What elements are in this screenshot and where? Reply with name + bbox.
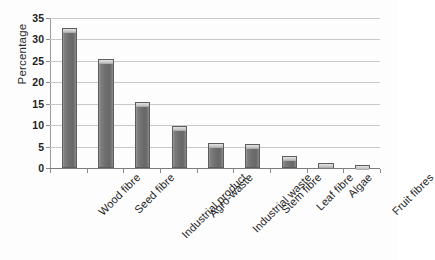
y-tick-label: 30 — [32, 33, 44, 45]
y-axis-title: Percentage — [16, 0, 28, 114]
y-tick-mark — [46, 82, 50, 83]
bar-highlight — [319, 164, 332, 168]
y-tick-mark — [46, 147, 50, 148]
y-tick-label: 20 — [32, 76, 44, 88]
y-tick-label: 10 — [32, 119, 44, 131]
y-tick-label: 25 — [32, 55, 44, 67]
x-axis-labels-group: Wood fibreSeed fibreIndustrial productAg… — [50, 171, 380, 257]
bar — [98, 59, 113, 168]
y-tick-label: 35 — [32, 12, 44, 24]
bar — [245, 144, 260, 168]
x-axis-label: Fruit fibres — [389, 171, 435, 217]
y-tick-mark — [46, 39, 50, 40]
y-tick-label: 5 — [38, 141, 44, 153]
y-tick-mark — [46, 125, 50, 126]
x-tick-mark — [380, 169, 381, 173]
bar — [135, 102, 150, 168]
bar-highlight — [99, 60, 112, 64]
bar — [172, 126, 187, 168]
y-tick-mark — [46, 18, 50, 19]
y-tick-mark — [46, 61, 50, 62]
bar — [62, 28, 77, 168]
bars-group — [51, 18, 380, 168]
y-tick-label: 0 — [38, 162, 44, 174]
bar — [208, 143, 223, 168]
bar-highlight — [173, 127, 186, 131]
bar-highlight — [209, 144, 222, 148]
bar — [318, 163, 333, 168]
bar — [355, 165, 370, 168]
y-tick-label: 15 — [32, 98, 44, 110]
bar — [282, 156, 297, 168]
bar-highlight — [136, 103, 149, 107]
plot-area: 05101520253035 — [50, 18, 380, 169]
bar-highlight — [246, 145, 259, 149]
bar-highlight — [283, 157, 296, 161]
y-tick-mark — [46, 104, 50, 105]
bar-highlight — [63, 29, 76, 33]
bar-highlight — [356, 166, 369, 170]
